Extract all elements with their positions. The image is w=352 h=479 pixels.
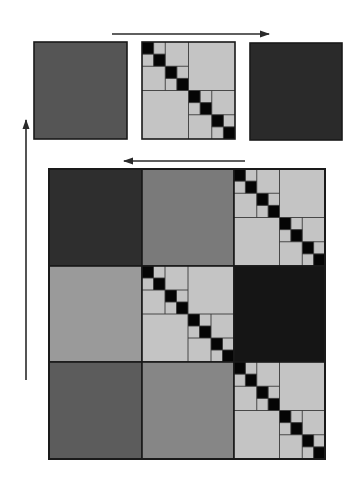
large-block-r1-c3 [234, 169, 325, 266]
large-block-r3-c1 [49, 362, 142, 459]
top-block-middle [142, 42, 235, 139]
diagonal-cell [142, 266, 154, 278]
diagonal-cell [280, 218, 291, 230]
diagonal-cell [234, 362, 245, 374]
diagonal-cell [268, 398, 279, 410]
diagonal-cell [314, 447, 325, 459]
diagonal-cell [211, 338, 223, 350]
large-block-r3-c3 [234, 362, 325, 459]
top-row-blocks [34, 42, 342, 140]
large-block-r2-c1 [49, 266, 142, 362]
large-block-r3-c2 [142, 362, 234, 459]
diagonal-cell [302, 242, 313, 254]
large-block-r1-c2 [142, 169, 234, 266]
top-block-right [250, 43, 342, 140]
matrix-diagram [0, 0, 352, 479]
diagonal-cell [189, 91, 201, 103]
diagonal-cell [234, 169, 245, 181]
large-block-r2-c2 [142, 266, 234, 362]
large-block-matrix [49, 169, 325, 459]
diagonal-cell [257, 193, 268, 205]
top-block-left [34, 42, 127, 139]
diagonal-cell [245, 374, 256, 386]
diagonal-cell [280, 411, 291, 423]
diagonal-cell [314, 254, 325, 266]
diagonal-cell [154, 278, 166, 290]
diagonal-cell [200, 103, 212, 115]
diagonal-cell [223, 127, 235, 139]
diagonal-cell [200, 326, 212, 338]
large-block-r1-c1 [49, 169, 142, 266]
diagonal-cell [165, 66, 177, 78]
diagonal-cell [188, 314, 200, 326]
diagonal-cell [291, 423, 302, 435]
diagonal-cell [177, 78, 189, 90]
diagonal-cell [245, 181, 256, 193]
diagonal-cell [302, 435, 313, 447]
diagonal-cell [223, 350, 235, 362]
diagonal-cell [154, 54, 166, 66]
large-block-r2-c3 [234, 266, 325, 362]
diagonal-cell [257, 386, 268, 398]
diagonal-cell [142, 42, 154, 54]
diagonal-cell [212, 115, 224, 127]
diagonal-cell [268, 205, 279, 217]
diagonal-cell [291, 230, 302, 242]
diagonal-cell [177, 302, 189, 314]
diagonal-cell [165, 290, 177, 302]
